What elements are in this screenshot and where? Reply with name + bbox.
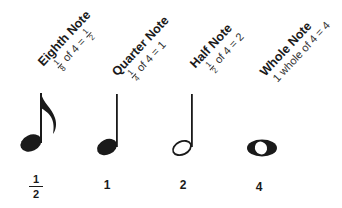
quarter-note-beats: 1 [97, 178, 117, 192]
quarter-note-icon [94, 94, 119, 158]
half-note-icon [171, 94, 194, 158]
half-note-beats: 2 [173, 178, 193, 192]
whole-note-beats: 4 [249, 180, 269, 194]
beats-numerator: 1 [29, 174, 43, 187]
beats-denominator: 2 [29, 187, 43, 200]
eighth-note-icon [18, 93, 56, 155]
note-values-diagram: Eighth Note 18 of 4 = 12 Quarter Note 14… [0, 0, 342, 208]
whole-note-icon [247, 139, 277, 156]
note-glyphs [0, 0, 342, 208]
eighth-note-beats: 1 2 [29, 174, 43, 200]
